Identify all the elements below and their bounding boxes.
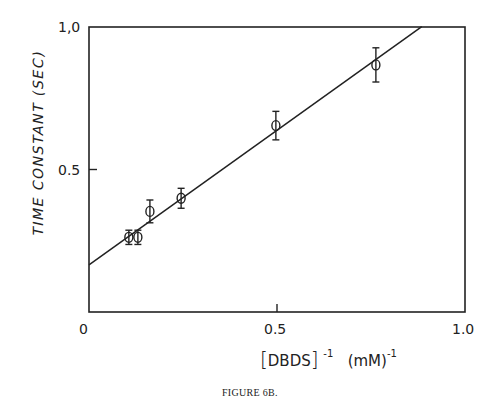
x-label-bracket-open: [	[260, 347, 268, 371]
x-tick-label-0.5: 0.5	[264, 322, 286, 336]
x-label-exponent-1: -1	[323, 348, 333, 359]
figure: 1,0 0.5 0 0.5 1.0 TIME CONSTANT (SEC) [D…	[0, 0, 495, 413]
x-label-exponent-2: -1	[387, 348, 397, 359]
x-axis-label: [DBDS] -1 (mM)-1	[260, 347, 397, 371]
x-label-species: DBDS	[268, 352, 311, 370]
figure-caption: FIGURE 6B.	[222, 387, 278, 398]
x-label-bracket-close: ]	[311, 347, 319, 371]
y-tick-label-0.5: 0.5	[58, 163, 80, 177]
y-tick-label-1: 1,0	[58, 20, 80, 34]
plot-area	[0, 0, 495, 413]
x-label-unit: (mM)	[348, 352, 387, 370]
y-axis-label: TIME CONSTANT (SEC)	[30, 48, 46, 237]
x-tick-label-1: 1.0	[452, 322, 474, 336]
x-tick-label-0: 0	[79, 322, 88, 336]
axes-frame	[89, 27, 465, 312]
